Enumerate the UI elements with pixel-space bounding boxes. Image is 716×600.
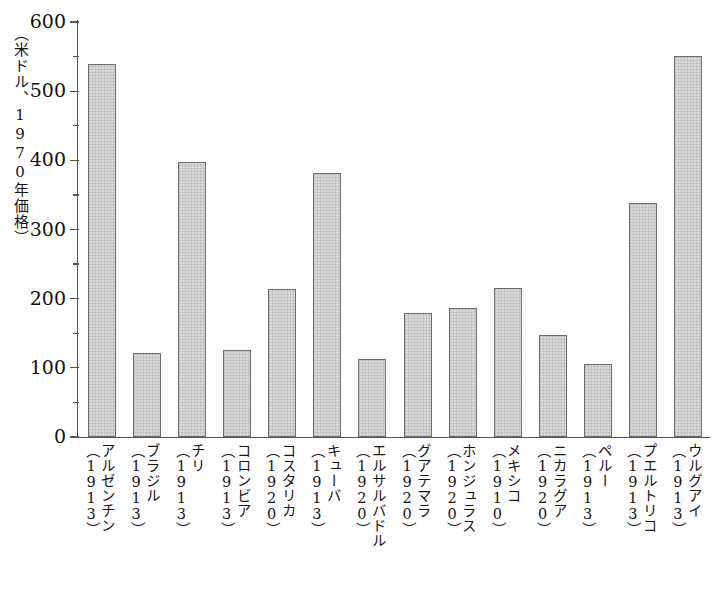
bar <box>268 289 296 437</box>
x-axis-category-label: ペルー（1913） <box>579 443 610 537</box>
y-axis-tick-label: 200 <box>22 289 66 308</box>
category-name: チリ <box>189 443 205 473</box>
y-axis-tick-minor <box>73 402 79 403</box>
x-axis-category-label: ニカラグア（1920） <box>534 443 565 537</box>
x-axis-category-label: チリ（1913） <box>173 443 204 537</box>
x-axis-category-label: ホンジュラス（1920） <box>444 443 475 537</box>
y-axis-tick-label: 400 <box>22 150 66 169</box>
category-name: ブラジル <box>144 443 160 503</box>
y-axis-tick-minor <box>73 125 79 126</box>
bar <box>358 359 386 437</box>
x-axis-category-label: ブラジル（1913） <box>128 443 159 537</box>
category-year: （1913） <box>173 443 189 537</box>
bar <box>178 162 206 437</box>
category-year: （1920） <box>534 443 550 537</box>
chart-figure: （米ドル、1970年価格） 0100200300400500600 アルゼンチン… <box>0 0 716 600</box>
y-axis-tick-label: 0 <box>22 427 66 446</box>
x-axis-category-labels: アルゼンチン（1913）ブラジル（1913）チリ（1913）コロンビア（1913… <box>78 443 710 600</box>
x-axis-category-label: グアテマラ（1920） <box>399 443 430 537</box>
category-year: （1920） <box>444 443 460 537</box>
category-year: （1920） <box>353 443 369 548</box>
category-name: アルゼンチン <box>99 443 115 533</box>
category-name: メキシコ <box>505 443 521 503</box>
y-axis-tick-minor <box>73 56 79 57</box>
bar <box>449 308 477 437</box>
category-name: ペルー <box>595 443 611 488</box>
y-axis-tick-minor <box>73 263 79 264</box>
x-axis-category-label: アルゼンチン（1913） <box>83 443 114 537</box>
category-name: キューバ <box>324 443 340 503</box>
y-axis-tick-major <box>70 298 79 299</box>
category-name: ウルグアイ <box>685 443 701 518</box>
bar <box>404 313 432 437</box>
x-axis-category-label: コロンビア（1913） <box>218 443 249 537</box>
category-year: （1913） <box>83 443 99 537</box>
category-year: （1920） <box>263 443 279 537</box>
category-name: コスタリカ <box>279 443 295 518</box>
category-year: （1913） <box>218 443 234 537</box>
category-name: エルサルバドル <box>369 443 385 548</box>
bar <box>88 64 116 438</box>
category-year: （1913） <box>128 443 144 537</box>
y-axis-tick-label: 500 <box>22 81 66 100</box>
y-axis-tick-major <box>70 436 79 437</box>
y-axis-tick-label: 100 <box>22 358 66 377</box>
bar <box>584 364 612 437</box>
bar <box>223 350 251 437</box>
x-axis-category-label: プエルトリコ（1913） <box>624 443 655 537</box>
y-axis-tick-major <box>70 91 79 92</box>
x-axis-category-label: ウルグアイ（1913） <box>669 443 700 537</box>
bar <box>674 56 702 437</box>
category-year: （1920） <box>399 443 415 537</box>
category-name: プエルトリコ <box>640 443 656 533</box>
bar <box>629 203 657 437</box>
category-name: ホンジュラス <box>460 443 476 533</box>
y-axis-tick-label: 600 <box>22 12 66 31</box>
category-name: ニカラグア <box>550 443 566 518</box>
category-year: （1913） <box>624 443 640 537</box>
x-axis-category-label: コスタリカ（1920） <box>263 443 294 537</box>
category-year: （1913） <box>579 443 595 537</box>
y-axis-tick-minor <box>73 194 79 195</box>
x-axis-category-label: キューバ（1913） <box>308 443 339 537</box>
category-name: グアテマラ <box>415 443 431 518</box>
x-axis-line <box>77 437 710 438</box>
bar <box>539 335 567 437</box>
y-axis-tick-major <box>70 21 79 22</box>
category-name: コロンビア <box>234 443 250 518</box>
y-axis-tick-minor <box>73 333 79 334</box>
y-axis-tick-major <box>70 229 79 230</box>
bar <box>313 173 341 437</box>
category-year: （1913） <box>669 443 685 537</box>
bar-series <box>78 22 710 437</box>
y-axis-tick-major <box>70 367 79 368</box>
bar <box>133 353 161 437</box>
y-axis-tick-labels: 0100200300400500600 <box>18 0 66 460</box>
x-axis-category-label: メキシコ（1910） <box>489 443 520 537</box>
x-axis-category-label: エルサルバドル（1920） <box>353 443 384 548</box>
y-axis-tick-label: 300 <box>22 220 66 239</box>
bar <box>494 288 522 437</box>
y-axis-tick-major <box>70 160 79 161</box>
category-year: （1910） <box>489 443 505 537</box>
category-year: （1913） <box>308 443 324 537</box>
